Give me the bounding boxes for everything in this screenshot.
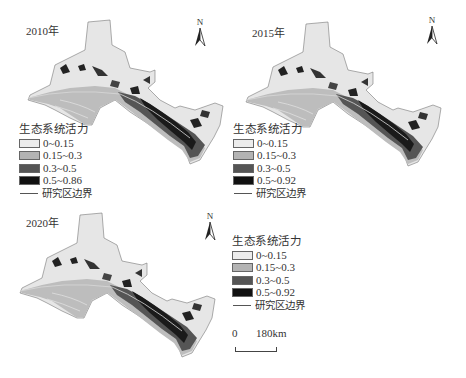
scale-start: 0 [232, 327, 238, 339]
legend-swatch [19, 176, 40, 185]
legend-swatch [232, 288, 253, 297]
legend-item: 0.15~0.3 [19, 150, 92, 163]
year-label: 2015年 [252, 24, 285, 40]
legend-item: 0.5~0.92 [233, 175, 306, 188]
legend: 生态系统活力 0~0.15 0.15~0.3 0.3~0.5 0.5~0.86 … [19, 123, 92, 200]
legend-item: 0.15~0.3 [232, 262, 305, 275]
legend-item: 0.5~0.92 [232, 287, 305, 300]
legend-item: 0~0.15 [233, 137, 306, 150]
legend-2020: 生态系统活力 0~0.15 0.15~0.3 0.3~0.5 0.5~0.92 … [232, 235, 305, 312]
legend-swatch [19, 164, 40, 173]
legend-boundary: 研究区边界 [233, 187, 306, 200]
legend-item: 0.3~0.5 [19, 162, 92, 175]
legend-title: 生态系统活力 [233, 123, 306, 136]
legend-item: 0~0.15 [19, 137, 92, 150]
map-panel-2020: 2020年 N [0, 190, 230, 378]
north-arrow-icon: N [193, 18, 207, 51]
legend-swatch [232, 251, 253, 260]
scale-end: 180km [256, 327, 287, 339]
legend-title: 生态系统活力 [19, 123, 92, 136]
legend-swatch [233, 176, 254, 185]
scale-bar-line [235, 347, 277, 352]
year-label: 2020年 [26, 214, 59, 230]
north-arrow-icon: N [203, 212, 217, 245]
legend-swatch [233, 164, 254, 173]
legend-item: 0~0.15 [232, 249, 305, 262]
map-panel-2015: 2015年 N 生态系统活力 0~0.15 0.15~0.3 0.3~0.5 0… [230, 0, 466, 190]
boundary-line-icon [233, 305, 251, 306]
legend-swatch [19, 151, 40, 160]
legend-swatch [19, 139, 40, 148]
legend-title: 生态系统活力 [232, 235, 305, 248]
legend-item: 0.3~0.5 [233, 162, 306, 175]
scale-bar: 0 180km [232, 327, 292, 357]
legend: 生态系统活力 0~0.15 0.15~0.3 0.3~0.5 0.5~0.92 … [233, 123, 306, 200]
legend-item: 0.5~0.86 [19, 175, 92, 188]
north-arrow-icon: N [425, 16, 439, 49]
legend-swatch [232, 276, 253, 285]
boundary-line-icon [234, 193, 252, 194]
legend-swatch [233, 139, 254, 148]
legend-boundary: 研究区边界 [232, 299, 305, 312]
year-label: 2010年 [26, 22, 59, 38]
legend-swatch [233, 151, 254, 160]
legend-item: 0.15~0.3 [233, 150, 306, 163]
map-panel-2010: 2010年 N 生态系统活力 0~0.15 0.15~0.3 0.3~0.5 0… [0, 0, 230, 190]
legend-item: 0.3~0.5 [232, 274, 305, 287]
legend-swatch [232, 263, 253, 272]
